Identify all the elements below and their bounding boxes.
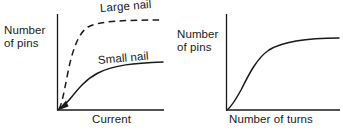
left-x-axis-label: Current [92,113,131,126]
right-y-axis-label-line2: of pins [177,41,212,53]
series-line-pins-vs-turns [227,38,339,110]
electromagnet-saturation-figure: Number of pins Current Large nail Small … [0,0,343,136]
right-y-axis-label-line1: Number [177,28,219,40]
series-line-small-nail [59,62,163,109]
right-x-axis-label: Number of turns [229,113,313,126]
right-y-axis-label: Number of pins [177,28,231,53]
left-y-axis-label-line2: of pins [4,37,39,49]
left-y-axis-label: Number of pins [4,24,56,49]
chart-panel-current: Number of pins Current Large nail Small … [0,0,172,136]
left-y-axis-label-line1: Number [4,24,46,36]
left-chart-plot [0,0,172,136]
chart-panel-turns: Number of pins Number of turns [171,0,343,136]
